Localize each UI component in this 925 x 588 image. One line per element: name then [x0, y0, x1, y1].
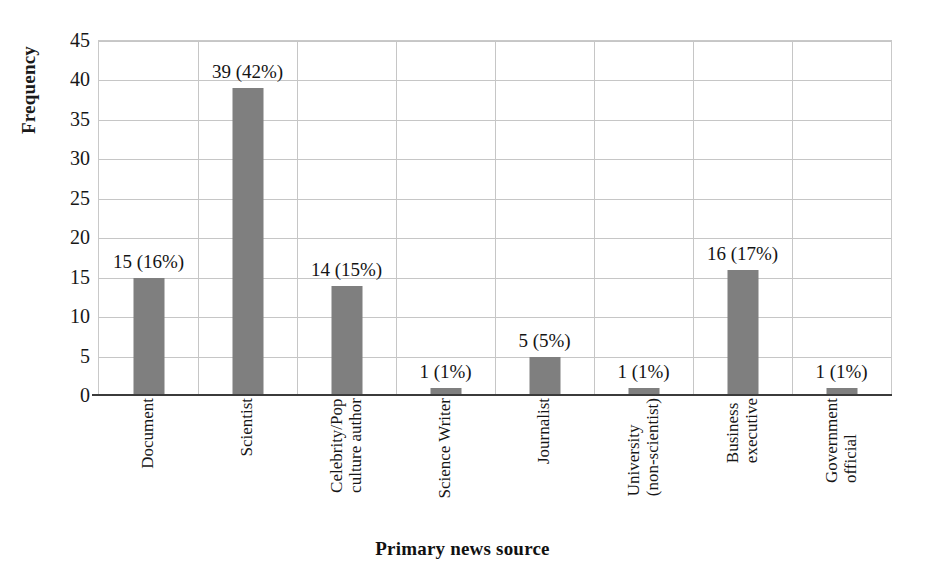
x-axis-category-label: Document: [98, 398, 197, 538]
y-axis-tick-label: 0: [54, 385, 90, 405]
y-axis-tick-label: 10: [54, 306, 90, 326]
y-axis-tick-labels: 454035302520151050: [52, 0, 90, 588]
x-axis-category-label-text: Businessexecutive: [723, 398, 761, 463]
bar[interactable]: [232, 88, 263, 396]
x-axis-category-label-text: Document: [138, 398, 157, 469]
bar[interactable]: [529, 357, 560, 396]
x-axis-category-label-text: Science Writer: [435, 398, 454, 498]
y-axis-title: Frequency: [14, 0, 44, 180]
bar-value-label: 1 (1%): [815, 361, 867, 382]
bar-value-label: 14 (15%): [311, 259, 382, 280]
x-axis-category-label: University(non-scientist): [593, 398, 692, 538]
x-axis-category-label: Governmentofficial: [791, 398, 890, 538]
bar-group: 39 (42%): [198, 41, 297, 396]
bar-group: 5 (5%): [495, 41, 594, 396]
bar-value-label: 1 (1%): [617, 361, 669, 382]
plot-area: 15 (16%)39 (42%)14 (15%)1 (1%)5 (5%)1 (1…: [98, 40, 892, 396]
bar-value-label: 15 (16%): [113, 251, 184, 272]
y-axis-tick-label: 45: [54, 30, 90, 50]
x-axis-category-label: Journalist: [494, 398, 593, 538]
x-axis-category-label-text: Journalist: [534, 398, 553, 464]
x-axis-category-label: Celebrity/Popculture author: [296, 398, 395, 538]
bar[interactable]: [133, 278, 164, 396]
bar-chart: Frequency 454035302520151050 15 (16%)39 …: [0, 0, 925, 588]
x-axis-line: [92, 394, 892, 396]
bar-group: 14 (15%): [297, 41, 396, 396]
y-axis-tick-label: 35: [54, 109, 90, 129]
x-axis-category-label: Science Writer: [395, 398, 494, 538]
y-axis-tick-label: 25: [54, 188, 90, 208]
x-axis-category-label-text: University(non-scientist): [624, 398, 662, 496]
y-axis-tick-label: 15: [54, 267, 90, 287]
x-axis-category-labels: DocumentScientistCelebrity/Popculture au…: [98, 398, 890, 538]
bar-value-label: 1 (1%): [419, 361, 471, 382]
y-axis-tick-label: 20: [54, 227, 90, 247]
bar-group: 1 (1%): [594, 41, 693, 396]
bar-value-label: 16 (17%): [707, 243, 778, 264]
x-axis-category-label-text: Governmentofficial: [822, 398, 860, 483]
bar[interactable]: [331, 286, 362, 396]
x-axis-category-label-text: Celebrity/Popculture author: [327, 398, 365, 493]
bar[interactable]: [727, 270, 758, 396]
bar-group: 15 (16%): [99, 41, 198, 396]
bar-value-label: 39 (42%): [212, 61, 283, 82]
bar-group: 16 (17%): [693, 41, 792, 396]
bar-value-label: 5 (5%): [518, 330, 570, 351]
y-axis-tick-label: 5: [54, 346, 90, 366]
x-axis-category-label: Businessexecutive: [692, 398, 791, 538]
x-axis-category-label-text: Scientist: [237, 398, 256, 457]
y-axis-tick-label: 40: [54, 69, 90, 89]
x-axis-title: Primary news source: [0, 538, 925, 560]
bar-group: 1 (1%): [792, 41, 891, 396]
x-axis-category-label: Scientist: [197, 398, 296, 538]
y-axis-tick-label: 30: [54, 148, 90, 168]
bar-group: 1 (1%): [396, 41, 495, 396]
